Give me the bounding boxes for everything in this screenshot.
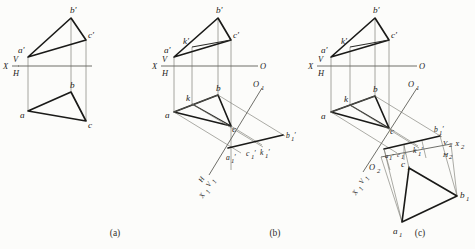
panel-a-label-c-prime: c': [88, 30, 95, 40]
panel-c-label-b1p-group: b 1 ′: [434, 125, 444, 136]
panel-c-label-o2: O: [369, 163, 375, 172]
panel-c-label-a1: a: [393, 226, 398, 236]
panel-c-label-b1-prime: b: [434, 125, 438, 134]
panel-c-aux1-ray-k: [350, 105, 419, 148]
panel-b-label-x: X: [151, 62, 158, 71]
panel-a-label-h: H: [12, 69, 20, 78]
panel-c-label-o1: O: [408, 80, 414, 89]
panel-c-label-v2-sub: 2: [449, 141, 453, 148]
panel-c-label-x2: X: [454, 140, 460, 148]
panel-c-label-x2-sub: 2: [461, 143, 465, 150]
panel-c-label-v: V: [318, 55, 324, 64]
panel-c-label-c-prime: c': [391, 30, 398, 40]
panel-c-frontal-triangle: [331, 18, 389, 57]
panel-b-label-k-prime: k': [183, 36, 190, 46]
svg-text:′: ′: [421, 146, 423, 155]
panel-c-label-b1-sub2: 1: [466, 195, 469, 202]
panel-b-label-b: b: [216, 83, 221, 93]
panel-c-label-x: X: [307, 62, 314, 71]
panel-c-label-c1-prime: c: [397, 151, 400, 158]
panel-a-label-a: a: [20, 110, 25, 120]
panel-b-label-c-prime: c': [233, 30, 240, 40]
panel-a-label-a-prime: a': [18, 45, 26, 55]
panel-c-label-c: c: [390, 126, 394, 136]
svg-text:′: ′: [294, 131, 296, 140]
panel-b-label-b1-group: b 1 ′: [286, 131, 296, 142]
panel-c-label-c1: c: [401, 159, 405, 169]
panel-b-aux-axis-o1-group: O 1: [253, 80, 264, 91]
panel-c-label-o: O: [419, 62, 425, 71]
panel-a-label-v: V: [13, 55, 19, 64]
panel-c-aux1-ray-a: [331, 112, 397, 153]
svg-text:′: ′: [442, 125, 444, 134]
caption-panel-b: (b): [255, 228, 295, 238]
panel-b-label-o1-sub: 1: [261, 84, 264, 91]
panel-b-label-x1-sub: 1: [204, 188, 212, 195]
svg-text:′: ′: [234, 153, 236, 162]
panel-b-aux-axis-x1v1-group: X 1 V 1 H: [189, 172, 217, 202]
panel-b-label-o1: O: [253, 80, 259, 89]
panel-a-label-b-prime: b': [70, 5, 78, 15]
panel-b-label-v: V: [162, 55, 168, 64]
panel-c-label-b-prime: b': [373, 5, 381, 15]
panel-b-label-k: k: [186, 93, 191, 103]
panel-b-aux-ray-k: [192, 104, 263, 147]
panel-c-aux2-ray-a: [384, 149, 402, 222]
panel-c-label-b1: b: [460, 190, 465, 200]
panel-b-label-v1-sub: 1: [210, 178, 218, 185]
panel-c-label-b1-group: b 1: [460, 190, 469, 202]
panel-c-aux1-frame-top: [331, 96, 375, 112]
panel-c-label-k: k: [344, 94, 349, 104]
panel-c-aux1-x1v1-group: X 1 V 1: [350, 173, 371, 198]
panel-b-label-k1-prime: k: [260, 148, 264, 157]
panel-a-label-c: c: [88, 120, 92, 130]
panel-c-label-c1-group: c 1: [401, 159, 410, 171]
panel-b-label-b-prime: b': [216, 5, 224, 15]
panel-b-label-c1-group: c 1 ′: [246, 149, 256, 160]
panel-c-label-o1-sub: 1: [416, 84, 419, 91]
panel-b-label-c: c: [232, 124, 236, 134]
svg-text:′: ′: [254, 149, 256, 158]
panel-c-diagram: a' b' c' k' a b c k X V H O O 1 X 1 V 1 …: [305, 0, 475, 249]
panel-b-label-a: a: [165, 110, 170, 120]
panel-b-label-b1-prime: b: [286, 131, 290, 140]
panel-c-label-v2: V: [443, 139, 448, 147]
panel-b-aux-edge-view: [228, 135, 283, 148]
panel-c-label-a: a: [321, 111, 326, 121]
panel-a-diagram: a' b' c' a b c X V H: [0, 0, 150, 225]
panel-c-true-shape-triangle: [402, 168, 457, 222]
panel-b-label-k1-group: k 1 ′: [260, 148, 270, 159]
panel-c-label-h2: H: [442, 151, 449, 159]
svg-text:′: ′: [268, 148, 270, 157]
panel-c-label-o2-sub: 2: [377, 167, 381, 174]
caption-panel-c: (c): [400, 228, 440, 238]
panel-b-label-a-prime: a': [164, 45, 172, 55]
panel-c-label-b: b: [373, 84, 378, 94]
panel-c-aux2-o2-group: O 2: [369, 163, 381, 174]
panel-b-label-c1-prime: c: [246, 149, 250, 158]
panel-a-frontal-triangle: [28, 18, 86, 57]
panel-b-label-o: O: [260, 62, 266, 71]
panel-c-label-k-prime: k': [341, 36, 348, 46]
panel-c-label-v1-sub: 1: [363, 175, 371, 182]
panel-a-label-b: b: [70, 80, 75, 90]
panel-c-aux2-frame-right: [451, 144, 457, 196]
panel-c-label-x1-sub: 1: [357, 185, 365, 192]
panel-a-horizontal-triangle: [28, 92, 86, 121]
caption-panel-a: (a): [95, 228, 135, 238]
panel-b-aux-ray-b: [218, 95, 285, 136]
panel-c-aux1-edge-view: [384, 136, 440, 149]
panel-a-label-x: X: [2, 62, 9, 71]
panel-c-aux2-v2h2-group: V 2 H 2 X 2: [442, 139, 465, 160]
svg-text:′: ′: [392, 152, 394, 159]
panel-c-aux1-o1-group: O 1: [408, 80, 419, 91]
panel-c-label-h: H: [317, 69, 325, 78]
panel-b-aux-frame-top: [174, 95, 218, 112]
panel-b-label-a1-prime: a: [226, 153, 230, 162]
panel-c-label-a-prime: a': [321, 45, 329, 55]
panel-c-label-c1-sub2: 1: [407, 164, 410, 171]
panel-b-label-h: H: [161, 69, 169, 78]
figure-root: a' b' c' a b c X V H: [0, 0, 475, 249]
panel-c-aux2-frame-left: [381, 157, 402, 222]
panel-c-aux1-ray-b: [375, 96, 442, 137]
